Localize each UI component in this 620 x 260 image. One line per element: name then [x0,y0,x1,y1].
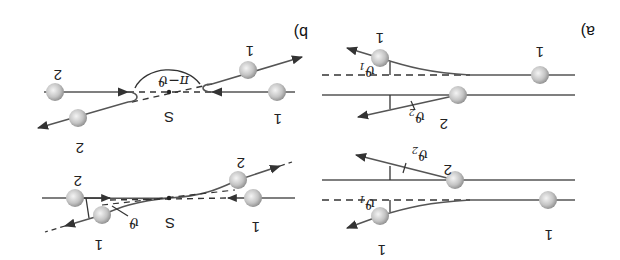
particle-1-scattered-ball [239,61,257,79]
particle-1-scattered-ball [93,206,111,224]
angle-label-2: ϑ2 [409,107,425,125]
label-particle-1-in: 1 [545,227,553,244]
label-particle-2: 2 [444,162,452,179]
label-particle-2-out: 2 [237,155,245,172]
particle-2-ball [66,189,84,207]
scattering-diagram: a) 1 1 2 ϑ1 ϑ2 [0,0,620,260]
label-particle-1-in: 1 [536,44,544,61]
label-particle-1-out: 1 [376,30,384,47]
angle-label-2: ϑ2 [412,145,428,163]
panel-a-label: a) [581,23,595,40]
label-particle-2-out: 2 [76,140,84,157]
angle-label: ϑ [129,215,139,231]
panel-b: b) 1 1 2 2 S π−ϑ [38,24,308,254]
label-particle-1-out: 1 [246,43,254,60]
label-particle-2: 2 [440,116,448,133]
angle-label-1: ϑ1 [359,194,375,212]
trajectory-2 [358,95,458,117]
particle-2-ball [449,86,467,104]
dashed-extension-2 [280,162,292,166]
panel-b-label: b) [294,24,308,41]
particle-1-ball [539,191,557,209]
particle-2-scattered-ball [229,171,247,189]
trajectory-2-out [170,180,238,198]
panel-b-top: 1 1 2 2 S π−ϑ [38,43,302,157]
dashed-extension-1 [45,226,65,232]
particle-1-ball [268,83,286,101]
particle-1-ball [244,189,262,207]
label-particle-1-in: 1 [252,219,260,236]
label-particle-2-in: 2 [54,67,62,84]
particle-2-ball [46,83,64,101]
angle-marker [86,198,89,218]
particle-2-scattered-ball [69,109,87,127]
panel-a: a) 1 1 2 ϑ1 ϑ2 [322,23,595,259]
scattering-center-dot [167,196,171,200]
label-particle-1-in: 1 [274,111,282,128]
angle-label-1: ϑ1 [359,61,375,79]
scattering-center-dot [167,90,171,94]
particle-1-ball [531,66,549,84]
label-particle-1-out: 1 [95,237,103,254]
label-particle-2-in: 2 [74,173,82,190]
label-particle-1-out: 1 [378,242,386,259]
panel-a-bottom: 2 1 1 ϑ2 ϑ1 [322,145,575,259]
panel-a-top: 1 1 2 ϑ1 ϑ2 [322,30,575,133]
panel-b-bottom: 2 2 1 1 S ϑ [42,155,295,254]
scattering-center-label: S [165,215,175,232]
scattering-center-label: S [164,109,174,126]
trajectory-2 [356,155,455,180]
angle-label: π−ϑ [158,73,190,89]
